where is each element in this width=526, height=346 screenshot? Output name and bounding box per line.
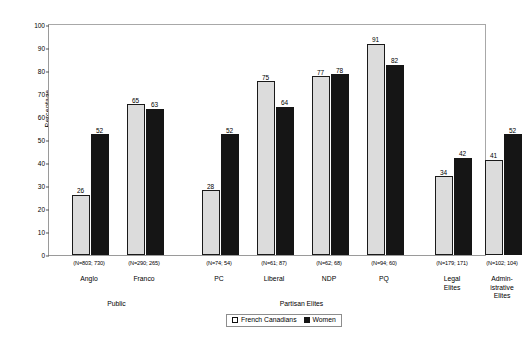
bar-series-container: 26526563285275647778918234424152 xyxy=(49,25,485,255)
bar-value-label: 26 xyxy=(77,188,84,195)
x-axis-n-label: (N=62; 68) xyxy=(316,260,342,266)
bar-french-canadians-pc: 28 xyxy=(202,190,220,255)
bar-value-label: 52 xyxy=(96,128,103,135)
bar-value-label: 82 xyxy=(391,58,398,65)
bar-french-canadians-franco: 65 xyxy=(127,104,145,255)
x-axis-category-line: istrative xyxy=(467,284,526,293)
y-tick-20: 20 xyxy=(7,206,49,213)
x-axis-n-label: (N=74; 54) xyxy=(206,260,232,266)
bar-french-canadians-admin-istrative-elites: 41 xyxy=(485,160,503,255)
y-tick-50: 50 xyxy=(7,137,49,144)
x-axis-category-pq: PQ xyxy=(349,275,419,284)
x-axis-n-label: (N=102; 104) xyxy=(486,260,518,266)
y-tick-70: 70 xyxy=(7,91,49,98)
bar-french-canadians-ndp: 77 xyxy=(312,76,330,255)
y-tick-90: 90 xyxy=(7,45,49,52)
y-tick-40: 40 xyxy=(7,160,49,167)
bar-value-label: 34 xyxy=(440,170,447,177)
x-axis-n-label: (N=803; 730) xyxy=(73,260,105,266)
bar-value-label: 65 xyxy=(132,98,139,105)
bar-french-canadians-pq: 91 xyxy=(367,44,385,255)
y-tick-10: 10 xyxy=(7,229,49,236)
y-tick-0: 0 xyxy=(7,252,49,259)
legend-label-women: Women xyxy=(313,317,336,324)
bar-women-pq: 82 xyxy=(386,65,404,255)
bar-value-label: 91 xyxy=(372,37,379,44)
bar-value-label: 52 xyxy=(509,128,516,135)
legend-label-french-canadians: French Canadians xyxy=(241,317,297,324)
bar-value-label: 64 xyxy=(281,100,288,107)
bar-women-franco: 63 xyxy=(146,109,164,255)
legend-swatch-french-canadians-icon xyxy=(232,317,238,323)
y-tick-30: 30 xyxy=(7,183,49,190)
x-axis-category-franco: Franco xyxy=(109,275,179,284)
bar-value-label: 28 xyxy=(207,184,214,191)
bar-value-label: 41 xyxy=(490,153,497,160)
legend-item-french-canadians: French Canadians xyxy=(232,317,297,324)
bar-value-label: 42 xyxy=(459,151,466,158)
bar-women-liberal: 64 xyxy=(276,107,294,255)
x-axis-category-line: PQ xyxy=(349,275,419,284)
x-axis-n-label: (N=179; 171) xyxy=(436,260,468,266)
x-axis-category-admin-: Admin-istrativeElites xyxy=(467,275,526,301)
bar-french-canadians-anglo: 26 xyxy=(72,195,90,255)
x-axis-group-public: Public xyxy=(57,300,177,307)
x-axis-category-line: Elites xyxy=(467,292,526,301)
y-tick-60: 60 xyxy=(7,114,49,121)
legend-swatch-women-icon xyxy=(304,317,310,323)
y-tick-100: 100 xyxy=(7,22,49,29)
x-axis-n-label: (N=61; 87) xyxy=(261,260,287,266)
bar-value-label: 78 xyxy=(336,68,343,75)
plot-inner: 0 10 20 30 40 50 60 70 80 90 100 2652656… xyxy=(49,25,485,255)
bar-women-pc: 52 xyxy=(221,134,239,255)
bar-women-anglo: 52 xyxy=(91,134,109,255)
bar-women-ndp: 78 xyxy=(331,74,349,255)
x-axis-category-line: Admin- xyxy=(467,275,526,284)
bar-french-canadians-legal-elites: 34 xyxy=(435,176,453,255)
bar-value-label: 63 xyxy=(151,102,158,109)
bar-value-label: 75 xyxy=(262,75,269,82)
y-tick-80: 80 xyxy=(7,68,49,75)
legend-item-women: Women xyxy=(304,317,336,324)
bar-value-label: 52 xyxy=(226,128,233,135)
x-axis-group-partisan-elites: Partisan Elites xyxy=(242,300,362,307)
bar-french-canadians-liberal: 75 xyxy=(257,81,275,255)
bar-women-admin-istrative-elites: 52 xyxy=(504,134,522,255)
bar-women-legal-elites: 42 xyxy=(454,158,472,255)
chart-legend: French Canadians Women xyxy=(226,314,342,327)
x-axis-category-line: Franco xyxy=(109,275,179,284)
x-axis-n-label: (N=290; 265) xyxy=(128,260,160,266)
bar-value-label: 77 xyxy=(317,70,324,77)
x-axis-n-label: (N=94; 60) xyxy=(371,260,397,266)
plot-area: 0 10 20 30 40 50 60 70 80 90 100 2652656… xyxy=(48,24,486,256)
